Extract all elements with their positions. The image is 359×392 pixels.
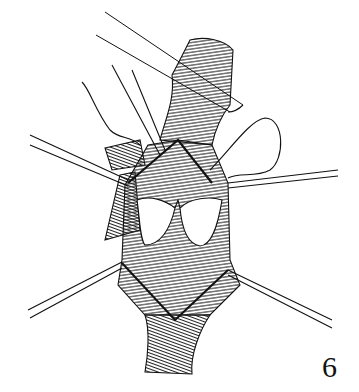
suture-left <box>82 82 140 145</box>
upper-vessel <box>160 38 233 145</box>
retractor-right-upper <box>228 170 338 188</box>
lower-vessel <box>145 315 210 374</box>
opened-vessel <box>118 140 240 315</box>
figure-number: 6 <box>322 352 337 382</box>
retractor-left-lower <box>28 110 122 268</box>
surgical-illustration <box>0 0 359 392</box>
